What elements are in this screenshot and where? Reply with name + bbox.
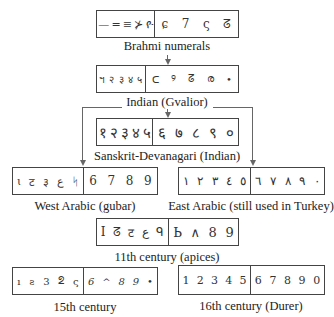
glyph: ४ <box>128 72 133 86</box>
glyph: ५ <box>143 122 151 142</box>
glyph: 7 <box>269 274 276 287</box>
glyph: 6 <box>88 276 94 287</box>
glyph: ⊁ <box>134 18 143 31</box>
apices-digits-6-9: Ь ∧ 8 9 <box>169 219 238 245</box>
label-devanagari: Sanskrit-Devanagari (Indian) <box>94 149 240 164</box>
arrowhead-icon <box>250 160 256 166</box>
glyph: • <box>226 74 232 85</box>
glyph: I <box>101 225 106 239</box>
west-arabic-digits-6-9: 6 7 8 9 <box>84 168 157 194</box>
glyph: ᘔ <box>113 225 121 239</box>
east-arabic-digits-6-0: ٦ ٧ ٨ ٩ ٠ <box>251 168 324 194</box>
glyph: ᘔ <box>223 17 231 31</box>
glyph: ര <box>207 73 214 85</box>
glyph: ዮ <box>146 18 153 31</box>
gvalior-digits-1-5: ฯ २ ३ ४ ५ <box>97 66 146 92</box>
glyph: ı <box>17 276 20 287</box>
glyph: Ь <box>173 225 182 240</box>
glyph: ० <box>226 122 234 142</box>
glyph: ٩ <box>299 174 305 188</box>
c15-digits-6-0: 6 ^ 8 9 • <box>84 268 157 294</box>
glyph: 6 <box>255 274 262 287</box>
arrowhead-icon <box>80 160 86 166</box>
glyph: 9 <box>144 174 152 188</box>
glyph: ୨ <box>171 73 176 85</box>
node-brahmi: — = ≡ ⊁ ዮ ɕ 7 ς ᘔ <box>96 10 239 38</box>
node-east-arabic: ١ ٢ ٣ ٤ ٥ ٦ ٧ ٨ ٩ ٠ <box>178 167 325 195</box>
glyph: ς <box>73 276 79 287</box>
glyph: • <box>147 276 153 287</box>
glyph: ٤ <box>226 174 232 188</box>
glyph: 7 <box>182 17 190 31</box>
c16-digits-6-0: 6 7 8 9 0 <box>251 266 324 294</box>
west-arabic-digits-1-5: ɩ ट ३ ﻉ ᛋ <box>13 168 84 194</box>
glyph: 8 <box>284 274 291 287</box>
label-apices: 11th century (apices) <box>114 250 219 265</box>
glyph: ७ <box>175 122 183 142</box>
glyph: ١ <box>183 174 189 188</box>
glyph: 1 <box>183 274 190 287</box>
glyph: ५ <box>137 72 142 86</box>
glyph: १ <box>99 122 107 142</box>
glyph: = <box>111 18 120 31</box>
glyph: ≡ <box>123 18 132 31</box>
c15-digits-1-5: ı ꙅ 3 ᘖ ς <box>13 268 84 294</box>
glyph: ट <box>29 174 35 189</box>
glyph: ^ <box>102 276 110 287</box>
glyph: 9 <box>225 225 233 240</box>
glyph: ट <box>128 224 134 241</box>
glyph: ᑫ <box>156 225 164 239</box>
devanagari-digits-6-0: ६ ७ ८ ९ ० <box>153 119 238 145</box>
node-apices: I ᘔ ट ﻉ ᑫ Ь ∧ 8 9 <box>96 218 239 246</box>
glyph: ς <box>203 17 210 31</box>
glyph: ٦ <box>255 174 261 188</box>
devanagari-digits-1-5: १ २ ३ ४ ५ <box>97 119 153 145</box>
glyph: ٠ <box>314 174 320 188</box>
glyph: ɩ <box>17 175 21 188</box>
glyph: ﻉ <box>57 175 64 188</box>
glyph: 0 <box>313 274 320 287</box>
glyph: ٢ <box>197 174 203 188</box>
label-gvalior: Indian (Gvalior) <box>126 95 208 110</box>
glyph: ९ <box>209 122 217 142</box>
bracket-left-vertical <box>82 107 83 161</box>
glyph: २ <box>109 72 114 86</box>
glyph: ३ <box>43 174 49 189</box>
glyph: ᛋ <box>72 175 79 188</box>
bracket-right-vertical <box>252 107 253 161</box>
apices-digits-1-5: I ᘔ ट ﻉ ᑫ <box>97 219 169 245</box>
label-west-arabic: West Arabic (gubar) <box>34 199 135 214</box>
glyph: ٨ <box>285 174 291 188</box>
brahmi-digits-6-9: ɕ 7 ς ᘔ <box>155 11 238 37</box>
glyph: ८ <box>192 122 200 142</box>
node-16th-century: 1 2 3 4 5 6 7 8 9 0 <box>178 265 325 295</box>
glyph: 9 <box>299 274 306 287</box>
label-east-arabic: East Arabic (still used in Turkey) <box>168 199 334 214</box>
glyph: २ <box>110 122 118 142</box>
label-16th-century: 16th century (Durer) <box>199 299 302 314</box>
glyph: 5 <box>239 274 246 287</box>
glyph: 3 <box>43 276 49 287</box>
glyph: ﻉ <box>142 225 149 239</box>
glyph: — <box>98 18 109 31</box>
gvalior-digits-6-0: ᑕ ୨ ᘔ ര • <box>146 66 239 92</box>
glyph: ɕ <box>161 17 168 31</box>
glyph: ᘖ <box>58 275 64 287</box>
label-15th-century: 15th century <box>54 300 117 315</box>
glyph: ᑕ <box>152 74 159 85</box>
glyph: 6 <box>89 174 97 188</box>
node-15th-century: ı ꙅ 3 ᘖ ς 6 ^ 8 9 • <box>12 267 158 295</box>
glyph: 3 <box>211 274 218 287</box>
glyph: ∧ <box>191 225 201 240</box>
glyph: ꙅ <box>29 276 34 287</box>
c16-digits-1-5: 1 2 3 4 5 <box>179 266 251 294</box>
node-devanagari: १ २ ३ ४ ५ ६ ७ ८ ९ ० <box>96 118 239 146</box>
glyph: 8 <box>119 276 125 287</box>
glyph: 7 <box>108 174 116 188</box>
glyph: ٧ <box>270 174 276 188</box>
brahmi-digits-1-5: — = ≡ ⊁ ዮ <box>97 11 155 37</box>
glyph: ३ <box>121 122 129 142</box>
glyph: 2 <box>197 274 204 287</box>
glyph: ४ <box>132 122 140 142</box>
glyph: 8 <box>209 225 217 240</box>
